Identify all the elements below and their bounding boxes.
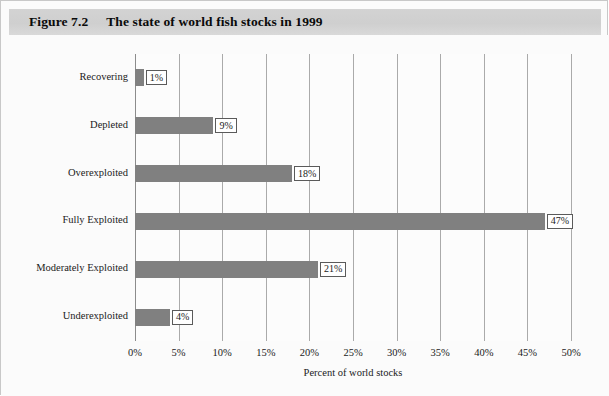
x-tick-label: 0% xyxy=(115,347,155,358)
x-tick-label: 45% xyxy=(507,347,547,358)
gridline xyxy=(484,54,485,341)
category-label: Depleted xyxy=(0,119,128,130)
x-tick-label: 15% xyxy=(246,347,286,358)
x-tick-label: 40% xyxy=(464,347,504,358)
x-tick-label: 5% xyxy=(159,347,199,358)
x-axis-tick-labels: 0%5%10%15%20%25%30%35%40%45%50% xyxy=(135,347,571,363)
bar xyxy=(135,309,170,326)
bar xyxy=(135,69,144,86)
bar xyxy=(135,213,545,230)
bar-value-label: 21% xyxy=(320,262,346,277)
gridline xyxy=(571,54,572,341)
category-label: Overexploited xyxy=(0,167,128,178)
gridline xyxy=(179,54,180,341)
gridline xyxy=(527,54,528,341)
figure-number: Figure 7.2 xyxy=(29,14,88,30)
plot-area: 1%9%18%47%21%4% xyxy=(135,54,571,341)
figure-title-band: Figure 7.2 The state of world fish stock… xyxy=(9,9,601,35)
x-tick-label: 20% xyxy=(289,347,329,358)
figure-title: The state of world fish stocks in 1999 xyxy=(106,14,322,30)
category-label: Moderately Exploited xyxy=(0,262,128,273)
category-label: Recovering xyxy=(0,71,128,82)
x-tick-label: 50% xyxy=(551,347,591,358)
y-axis-line xyxy=(135,54,136,341)
bar-value-label: 4% xyxy=(172,310,193,325)
bar xyxy=(135,165,292,182)
y-axis-category-labels: RecoveringDepletedOverexploitedFully Exp… xyxy=(1,54,128,341)
x-tick-label: 35% xyxy=(420,347,460,358)
bar-value-label: 1% xyxy=(146,70,167,85)
category-label: Underexploited xyxy=(0,310,128,321)
gridline xyxy=(397,54,398,341)
category-label: Fully Exploited xyxy=(0,214,128,225)
gridline xyxy=(440,54,441,341)
gridline xyxy=(309,54,310,341)
x-tick-label: 25% xyxy=(333,347,373,358)
bar xyxy=(135,117,213,134)
gridline xyxy=(266,54,267,341)
chart-region: RecoveringDepletedOverexploitedFully Exp… xyxy=(1,35,609,396)
bar-value-label: 47% xyxy=(547,214,573,229)
x-axis-title: Percent of world stocks xyxy=(135,367,571,378)
x-tick-label: 10% xyxy=(202,347,242,358)
bar-value-label: 9% xyxy=(215,118,236,133)
x-tick-label: 30% xyxy=(377,347,417,358)
bar xyxy=(135,261,318,278)
gridline xyxy=(222,54,223,341)
bar-value-label: 18% xyxy=(294,166,320,181)
gridline xyxy=(353,54,354,341)
